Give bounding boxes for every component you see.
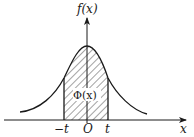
shaded-area	[64, 46, 108, 120]
area-label: Φ(x)	[73, 89, 97, 102]
normal-distribution-diagram: f(x) x O −t t Φ(x)	[0, 0, 194, 137]
y-axis-label: f(x)	[76, 2, 98, 16]
origin-label: O	[83, 122, 93, 136]
right-bound-label: t	[105, 122, 110, 136]
left-bound-label: −t	[54, 122, 69, 136]
x-axis-label: x	[180, 122, 187, 136]
